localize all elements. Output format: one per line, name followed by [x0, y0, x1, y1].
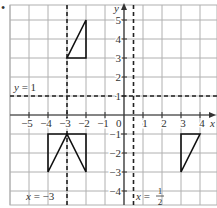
labels: −5−4−3−2−1123454321−1−2−3−40xyy = 1x = −… [13, 2, 215, 207]
x-tick-label: 1 [142, 117, 148, 129]
y-tick-label: −4 [109, 185, 121, 197]
y-tick-label: 1 [116, 90, 122, 102]
y-tick-label: 5 [116, 14, 122, 26]
label-y-equals-1: y = 1 [13, 81, 36, 93]
label-x-equals-minus-3: x = −3 [25, 190, 55, 202]
y-axis-arrow-icon [121, 3, 127, 10]
y-tick-label: −1 [109, 128, 121, 140]
y-tick-label: 2 [116, 71, 122, 83]
question-marker: • [1, 1, 5, 15]
x-tick-label: 3 [180, 117, 186, 129]
y-tick-label: 3 [116, 52, 122, 64]
x-tick-label: 2 [161, 117, 167, 129]
y-tick-label: −3 [109, 166, 121, 178]
fraction-denominator: 2 [158, 197, 163, 207]
x-tick-label: −1 [97, 117, 109, 129]
coordinate-grid: −5−4−3−2−1123454321−1−2−3−40xyy = 1x = −… [0, 0, 217, 208]
fraction-numerator: 1 [158, 186, 163, 196]
x-tick-label: 4 [199, 117, 205, 129]
y-tick-label: 4 [116, 33, 122, 45]
x-tick-label: −4 [40, 117, 52, 129]
y-axis-label: y [113, 2, 119, 14]
x-tick-label: −5 [21, 117, 33, 129]
x-axis-label: x [209, 117, 215, 129]
y-tick-label: −2 [109, 147, 121, 159]
x-tick-label: −3 [59, 117, 71, 129]
label-x-equals-half: x = [135, 190, 150, 202]
origin-label: 0 [116, 117, 122, 129]
x-tick-label: −2 [78, 117, 90, 129]
